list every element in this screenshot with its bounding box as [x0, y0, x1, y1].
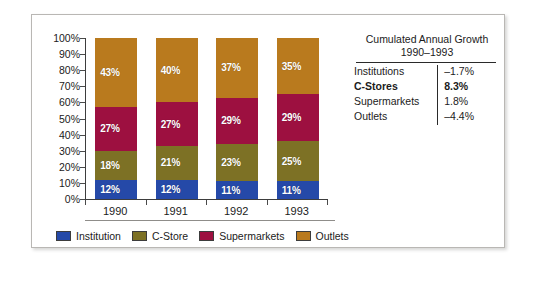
- legend-item[interactable]: Supermarkets: [199, 230, 284, 242]
- bar-segment-value-label: 12%: [161, 184, 180, 195]
- bar-segment[interactable]: 18%: [95, 151, 137, 180]
- y-axis-tick-label: 0%: [36, 194, 80, 204]
- stacked-bar-chart: 100%90%80%70%60%50%40%30%20%10%0% 12%18%…: [32, 15, 352, 249]
- bar-segment[interactable]: 35%: [277, 38, 319, 94]
- growth-table-row-name: C-Stores: [354, 80, 435, 92]
- bar-segment-value-label: 18%: [100, 160, 119, 171]
- y-axis-tick-label: 100%: [36, 33, 80, 43]
- bar-segment[interactable]: 43%: [95, 38, 137, 107]
- bar-segment[interactable]: 27%: [95, 107, 137, 150]
- bar-segment[interactable]: 12%: [95, 180, 137, 199]
- plot-inner: 12%18%27%43%12%21%27%40%11%23%29%37%11%2…: [86, 38, 328, 199]
- bar-segment-value-label: 12%: [100, 184, 119, 195]
- bar-column[interactable]: 12%21%27%40%: [156, 38, 198, 199]
- legend-item[interactable]: Institution: [56, 230, 121, 242]
- bar-segment[interactable]: 29%: [216, 98, 258, 145]
- growth-table-column-divider: [437, 65, 438, 125]
- legend-item[interactable]: Outlets: [296, 230, 349, 242]
- growth-table-rows: Institutions–1.7%C-Stores8.3%Supermarket…: [354, 65, 500, 125]
- y-axis-tick-label: 20%: [36, 162, 80, 172]
- x-axis-tick-label: 1992: [206, 205, 266, 217]
- legend-label: C-Store: [152, 230, 188, 242]
- x-axis: 1990199119921993: [85, 205, 327, 221]
- x-axis-baseline: [85, 220, 335, 221]
- y-axis-tick-label: 60%: [36, 97, 80, 107]
- growth-table-row: Institutions–1.7%: [354, 65, 500, 80]
- bar-segment-value-label: 35%: [282, 61, 301, 72]
- plot-area: 12%18%27%43%12%21%27%40%11%23%29%37%11%2…: [85, 38, 328, 200]
- legend-swatch: [199, 231, 214, 241]
- growth-table-row-name: Supermarkets: [354, 95, 435, 107]
- legend-swatch: [132, 231, 147, 241]
- bar-segment-value-label: 37%: [221, 62, 240, 73]
- y-axis-tick-label: 80%: [36, 65, 80, 75]
- y-axis-tick-label: 10%: [36, 178, 80, 188]
- bar-segment-value-label: 29%: [221, 115, 240, 126]
- x-axis-tick-label: 1993: [267, 205, 327, 217]
- growth-table-row-value: –1.7%: [435, 65, 500, 77]
- bar-segment-value-label: 43%: [100, 67, 119, 78]
- bar-segment[interactable]: 12%: [156, 180, 198, 199]
- legend-label: Institution: [76, 230, 121, 242]
- bar-segment[interactable]: 29%: [277, 94, 319, 141]
- bar-segment[interactable]: 25%: [277, 141, 319, 181]
- bar-segment[interactable]: 11%: [277, 181, 319, 199]
- bar-column[interactable]: 12%18%27%43%: [95, 38, 137, 199]
- growth-table-row-value: –4.4%: [435, 110, 500, 122]
- y-axis-tick-label: 70%: [36, 81, 80, 91]
- bar-segment-value-label: 25%: [282, 156, 301, 167]
- bar-segment[interactable]: 23%: [216, 144, 258, 181]
- legend-item[interactable]: C-Store: [132, 230, 188, 242]
- y-axis-tick-label: 30%: [36, 146, 80, 156]
- growth-table-title-line1: Cumulated Annual Growth: [354, 33, 500, 46]
- bar-segment[interactable]: 40%: [156, 38, 198, 102]
- bar-segment-value-label: 27%: [100, 123, 119, 134]
- bar-column[interactable]: 11%23%29%37%: [216, 38, 258, 199]
- growth-table-row: Outlets–4.4%: [354, 110, 500, 125]
- bar-segment[interactable]: 21%: [156, 146, 198, 180]
- growth-table-row-value: 8.3%: [435, 80, 500, 92]
- y-axis-tick-label: 40%: [36, 130, 80, 140]
- bar-segment-value-label: 11%: [282, 185, 301, 196]
- growth-table: Cumulated Annual Growth 1990–1993 Instit…: [354, 33, 500, 125]
- bar-column[interactable]: 11%25%29%35%: [277, 38, 319, 199]
- bar-segment[interactable]: 37%: [216, 38, 258, 98]
- growth-table-row: C-Stores8.3%: [354, 80, 500, 95]
- chart-legend: InstitutionC-StoreSupermarketsOutlets: [56, 227, 360, 245]
- x-axis-tick-label: 1991: [146, 205, 206, 217]
- bar-segment[interactable]: 11%: [216, 181, 258, 199]
- growth-table-row-name: Outlets: [354, 110, 435, 122]
- y-axis-tick-label: 90%: [36, 49, 80, 59]
- growth-table-header-rule: [356, 62, 496, 63]
- legend-label: Supermarkets: [219, 230, 284, 242]
- bar-segment-value-label: 40%: [161, 65, 180, 76]
- growth-table-title-line2: 1990–1993: [354, 46, 500, 59]
- y-axis: 100%90%80%70%60%50%40%30%20%10%0%: [32, 15, 80, 249]
- growth-table-row-value: 1.8%: [435, 95, 500, 107]
- figure-frame: 100%90%80%70%60%50%40%30%20%10%0% 12%18%…: [31, 14, 505, 248]
- bar-segment-value-label: 11%: [221, 185, 240, 196]
- x-axis-tick-label: 1990: [85, 205, 145, 217]
- growth-table-row-name: Institutions: [354, 65, 435, 77]
- growth-table-row: Supermarkets1.8%: [354, 95, 500, 110]
- bar-segment[interactable]: 27%: [156, 102, 198, 145]
- bar-segment-value-label: 23%: [221, 157, 240, 168]
- bar-segment-value-label: 29%: [282, 112, 301, 123]
- bar-segment-value-label: 27%: [161, 119, 180, 130]
- legend-swatch: [296, 231, 311, 241]
- legend-label: Outlets: [316, 230, 349, 242]
- x-axis-tick-mark: [327, 200, 328, 205]
- y-axis-tick-label: 50%: [36, 114, 80, 124]
- bar-segment-value-label: 21%: [161, 157, 180, 168]
- legend-swatch: [56, 231, 71, 241]
